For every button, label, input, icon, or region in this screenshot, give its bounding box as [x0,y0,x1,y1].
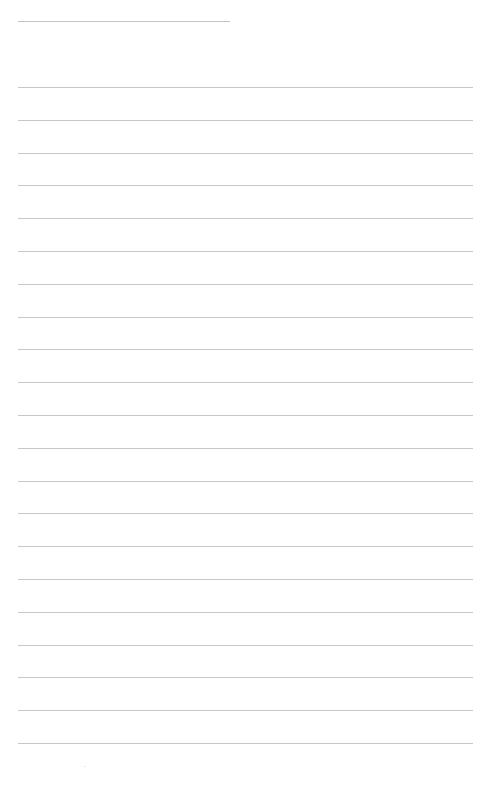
ruled-line [18,382,473,383]
ruled-line [18,349,473,350]
ruled-line [18,415,473,416]
ruled-line [18,284,473,285]
ruled-line [18,251,473,252]
lined-paper-page [0,0,495,805]
header-title-line [18,21,230,22]
ruled-line [18,120,473,121]
ruled-line [18,743,473,744]
ruled-line [18,481,473,482]
ruled-line [18,87,473,88]
ruled-line [18,218,473,219]
ruled-line [18,546,473,547]
ruled-line [18,645,473,646]
ruled-line [18,579,473,580]
ruled-line [18,513,473,514]
ruled-line [18,153,473,154]
paper-speck [84,766,85,767]
ruled-line [18,612,473,613]
ruled-line [18,317,473,318]
ruled-line [18,185,473,186]
ruled-line [18,448,473,449]
ruled-line [18,710,473,711]
ruled-line [18,677,473,678]
